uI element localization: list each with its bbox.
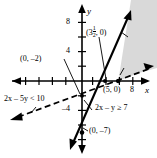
boundary-pointer-ticks bbox=[31, 32, 128, 113]
y-tick-label-4: 4 bbox=[66, 47, 70, 55]
point-label-5-0: (5, 0) bbox=[103, 86, 120, 94]
paren-close: , 0) bbox=[96, 28, 107, 37]
graph-figure: 8 4 –4 8 y x (312, 0) (0, –2) (5, 0) (0,… bbox=[0, 0, 157, 158]
y-tick-label-neg4: –4 bbox=[62, 105, 70, 113]
y-axis-label: y bbox=[87, 7, 91, 16]
point-5-0 bbox=[116, 79, 121, 84]
point-3half-0 bbox=[103, 79, 107, 83]
point-label-0-neg2: (0, –2) bbox=[20, 55, 41, 63]
leader-3half bbox=[99, 37, 106, 79]
point-0-neg2 bbox=[80, 94, 84, 98]
leader-0neg2 bbox=[64, 59, 80, 94]
inequality-label-dashed: 2x – 5y < 10 bbox=[4, 95, 45, 103]
leader-0neg7 bbox=[83, 128, 88, 131]
solution-region-shading bbox=[118, 0, 157, 81]
point-label-0-neg7: (0, –7) bbox=[89, 127, 110, 135]
inequality-label-solid: 2x – y ≥ 7 bbox=[95, 104, 127, 112]
graph-canvas bbox=[0, 0, 157, 158]
pointer-dashed-lower bbox=[31, 107, 36, 113]
x-tick-label-8: 8 bbox=[130, 86, 134, 94]
y-tick-label-8: 8 bbox=[66, 18, 70, 26]
x-axis bbox=[12, 77, 150, 85]
point-0-neg7 bbox=[80, 130, 85, 135]
point-label-3half-0: (312, 0) bbox=[86, 25, 106, 39]
x-axis-label: x bbox=[145, 86, 149, 95]
